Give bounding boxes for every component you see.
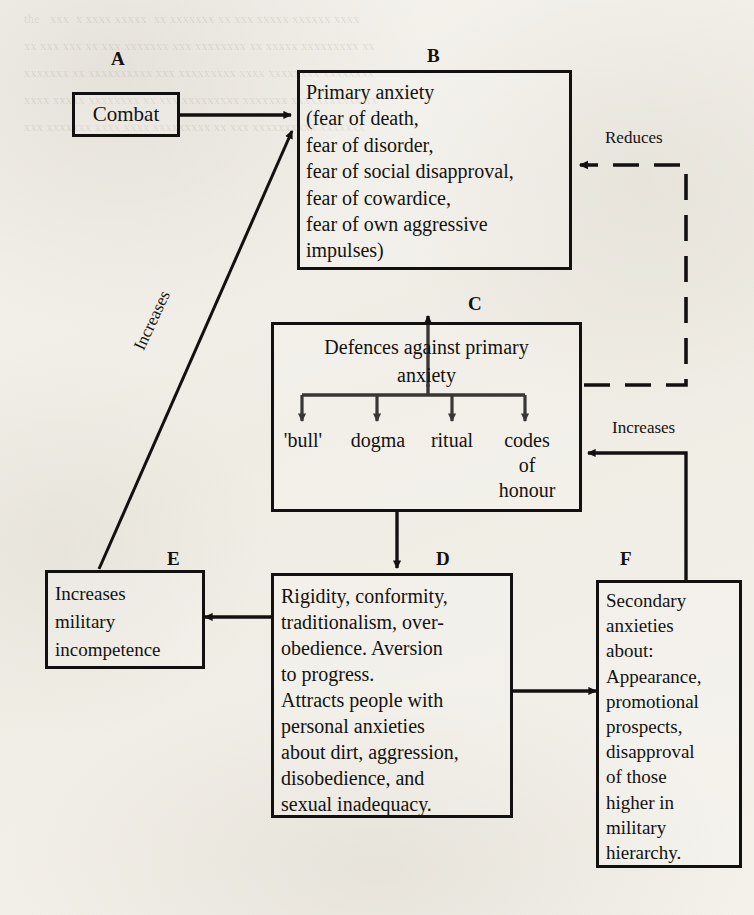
- edge-label-increases-right: Increases: [612, 418, 675, 438]
- defence-item-ritual: ritual: [419, 428, 485, 453]
- arrow-c-to-b-reduces: [580, 165, 686, 385]
- box-f-letter: F: [620, 548, 632, 570]
- defence-item-bull: 'bull': [272, 428, 334, 453]
- arrow-f-to-c-increases: [588, 453, 686, 580]
- defence-item-codes-of-honour: codes of honour: [492, 428, 562, 503]
- box-c-text: Defences against primary anxiety: [271, 333, 582, 389]
- edge-label-increases-diagonal: Increases: [130, 288, 175, 354]
- edge-label-reduces: Reduces: [605, 128, 663, 148]
- box-b-letter: B: [427, 45, 440, 67]
- box-a-letter: A: [111, 48, 125, 70]
- box-f-text: Secondary anxieties about: Appearance, p…: [606, 588, 740, 865]
- box-c-letter: C: [468, 293, 482, 315]
- defence-item-dogma: dogma: [343, 428, 413, 453]
- box-d-letter: D: [436, 548, 450, 570]
- arrow-e-to-b-increases: [99, 131, 292, 569]
- box-d-text: Rigidity, conformity, traditionalism, ov…: [281, 583, 511, 817]
- box-a-text: Combat: [72, 101, 180, 128]
- diagram-canvas: the xxx x xxxx xxxxx xx xxxxxxx xx xxx x…: [0, 0, 754, 915]
- box-e-text: Increases military incompetence: [55, 580, 201, 664]
- box-e-letter: E: [167, 548, 180, 570]
- box-b-text: Primary anxiety (fear of death, fear of …: [306, 79, 568, 264]
